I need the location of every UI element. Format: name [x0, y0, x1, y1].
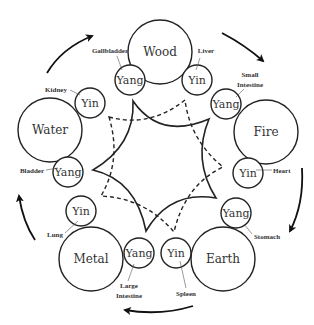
element-earth: Earth Yang Yin Stomach Spleen	[161, 198, 280, 298]
cycle-arrow-fire-to-earth	[290, 168, 302, 231]
spleen-label: Spleen	[176, 290, 196, 298]
earth-yin-label: Yin	[166, 247, 185, 260]
cycle-arrow-water-to-wood	[47, 36, 92, 73]
fire-label: Fire	[253, 125, 278, 139]
large-intestine-label-2: Intestine	[116, 292, 142, 300]
bladder-label: Bladder	[20, 167, 44, 175]
wood-yang-label: Yang	[115, 74, 143, 87]
water-label: Water	[32, 123, 68, 137]
earth-yang-label: Yang	[221, 207, 249, 220]
heart-label: Heart	[273, 167, 291, 175]
metal-label: Metal	[73, 252, 108, 266]
gallbladder-label: Gallbladder	[92, 47, 128, 55]
wood-label: Wood	[143, 45, 177, 59]
metal-yin-label: Yin	[71, 205, 90, 218]
metal-yang-label: Yang	[124, 247, 152, 260]
fire-yin-label: Yin	[238, 167, 257, 180]
lung-label: Lung	[47, 231, 63, 239]
five-elements-diagram: Wood Yang Yin Gallbladder Liver Fire Yan…	[0, 0, 314, 325]
wood-yin-label: Yin	[187, 74, 206, 87]
cycle-arrow-earth-to-metal	[125, 306, 193, 312]
fire-yang-label: Yang	[211, 98, 239, 111]
earth-label: Earth	[206, 252, 240, 266]
cycle-arrow-wood-to-fire	[222, 33, 263, 61]
cycle-arrow-metal-to-water	[19, 196, 35, 240]
water-yin-label: Yin	[80, 97, 99, 110]
element-fire: Fire Yang Yin Small Intestine Heart	[211, 71, 298, 188]
element-metal: Metal Yin Yang Lung Large Intestine	[47, 196, 154, 300]
element-wood: Wood Yang Yin Gallbladder Liver	[92, 20, 214, 95]
liver-label: Liver	[198, 47, 214, 55]
stomach-label: Stomach	[254, 233, 280, 241]
kidney-label: Kidney	[45, 86, 67, 94]
solid-star	[93, 101, 216, 231]
large-intestine-label-1: Large	[120, 282, 138, 290]
element-water: Water Yin Yang Kidney Bladder	[18, 86, 105, 187]
small-intestine-label-1: Small	[241, 71, 258, 79]
small-intestine-label-2: Intestine	[237, 81, 263, 89]
